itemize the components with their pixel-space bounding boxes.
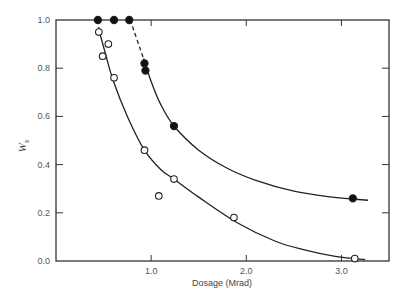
filled-fit-curve-dashed: [130, 20, 143, 59]
y-tick-label: 0.8: [37, 63, 50, 73]
fit-curves: [99, 20, 368, 260]
open-circle-marker: [231, 214, 238, 221]
open-circle-marker: [351, 255, 358, 262]
open-circle-marker: [105, 41, 112, 48]
y-axis-label-subscript: s: [22, 140, 31, 143]
x-axis-label: Dosage (Mrad): [192, 278, 252, 288]
y-tick-label: 0.4: [37, 160, 50, 170]
y-tick-label: 1.0: [37, 15, 50, 25]
y-axis-label: Ws: [16, 140, 31, 152]
open-circle-marker: [155, 193, 162, 200]
chart: 1.02.03.00.00.20.40.60.81.0 Dosage (Mrad…: [0, 0, 403, 303]
data-markers: [94, 16, 358, 261]
open-fit-curve: [99, 30, 365, 260]
open-circle-marker: [141, 147, 148, 154]
filled-circle-marker: [141, 60, 148, 67]
open-circle-marker: [111, 75, 118, 82]
open-circle-marker: [99, 53, 106, 60]
x-tick-label: 2.0: [240, 266, 253, 276]
open-circle-marker: [96, 29, 103, 36]
filled-circle-marker: [94, 16, 101, 23]
filled-circle-marker: [170, 122, 177, 129]
y-tick-label: 0.0: [37, 256, 50, 266]
filled-circle-marker: [110, 16, 117, 23]
filled-circle-marker: [142, 67, 149, 74]
y-tick-label: 0.2: [37, 208, 50, 218]
y-tick-label: 0.6: [37, 111, 50, 121]
x-tick-label: 1.0: [145, 266, 158, 276]
open-circle-marker: [171, 176, 178, 183]
filled-circle-marker: [349, 195, 356, 202]
svg-text:Ws: Ws: [16, 140, 31, 152]
filled-circle-marker: [126, 16, 133, 23]
x-tick-label: 3.0: [335, 266, 348, 276]
